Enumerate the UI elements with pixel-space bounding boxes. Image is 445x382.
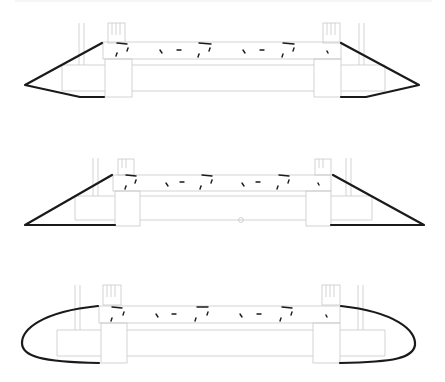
variant-pointed (25, 23, 419, 97)
right-end-pointed (341, 43, 419, 97)
right-end-triangular (331, 175, 424, 225)
diagram-canvas (0, 0, 445, 382)
right-end-rounded (340, 306, 415, 363)
variant-rounded (22, 285, 415, 363)
left-end-triangular (25, 175, 115, 225)
left-end-rounded (22, 306, 99, 363)
left-end-pointed (25, 43, 104, 97)
variant-triangular (25, 158, 424, 226)
